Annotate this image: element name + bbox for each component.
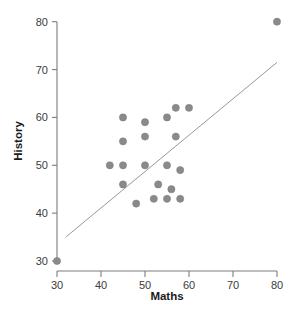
plot-canvas: 304050607080 History 304050607080 Maths bbox=[0, 0, 295, 319]
scatter-plot-figure: 304050607080 History 304050607080 Maths bbox=[0, 0, 295, 319]
x-axis-ticks bbox=[57, 271, 277, 277]
y-axis-tick-labels: 304050607080 bbox=[36, 16, 48, 267]
y-tick-label: 70 bbox=[36, 64, 48, 76]
data-point bbox=[53, 257, 60, 264]
data-point bbox=[141, 162, 148, 169]
data-point bbox=[119, 138, 126, 145]
data-point bbox=[163, 195, 170, 202]
y-tick-label: 50 bbox=[36, 159, 48, 171]
data-point bbox=[150, 195, 157, 202]
y-axis-ticks bbox=[52, 22, 57, 261]
x-tick-label: 30 bbox=[51, 279, 63, 291]
trend-line bbox=[66, 62, 277, 237]
y-tick-label: 30 bbox=[36, 255, 48, 267]
data-point bbox=[177, 166, 184, 173]
y-tick-label: 60 bbox=[36, 111, 48, 123]
x-tick-label: 60 bbox=[183, 279, 195, 291]
data-point bbox=[168, 186, 175, 193]
y-tick-label: 80 bbox=[36, 16, 48, 28]
data-point bbox=[106, 162, 113, 169]
data-point bbox=[155, 181, 162, 188]
data-point bbox=[185, 104, 192, 111]
data-point bbox=[141, 119, 148, 126]
data-point bbox=[119, 181, 126, 188]
data-point bbox=[273, 18, 280, 25]
y-axis-title: History bbox=[12, 121, 24, 161]
data-point bbox=[172, 104, 179, 111]
data-point bbox=[177, 195, 184, 202]
data-point bbox=[172, 133, 179, 140]
data-point bbox=[119, 162, 126, 169]
y-tick-label: 40 bbox=[36, 207, 48, 219]
data-point bbox=[141, 133, 148, 140]
data-point bbox=[133, 200, 140, 207]
data-points bbox=[53, 18, 280, 265]
x-tick-label: 70 bbox=[227, 279, 239, 291]
y-axis: 304050607080 History bbox=[12, 16, 57, 267]
data-point bbox=[119, 114, 126, 121]
data-point bbox=[163, 114, 170, 121]
data-point bbox=[163, 162, 170, 169]
x-tick-label: 40 bbox=[95, 279, 107, 291]
x-axis: 304050607080 Maths bbox=[51, 271, 283, 302]
x-tick-label: 80 bbox=[271, 279, 283, 291]
x-axis-title: Maths bbox=[150, 290, 183, 302]
x-tick-label: 50 bbox=[139, 279, 151, 291]
